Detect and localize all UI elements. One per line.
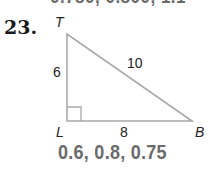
side-label-tl: 6 — [53, 64, 61, 80]
triangle-shape — [67, 34, 192, 121]
vertex-label-l: L — [56, 124, 64, 140]
right-angle-marker — [67, 107, 81, 121]
vertex-label-b: B — [195, 124, 204, 140]
side-label-tb: 10 — [127, 55, 143, 71]
answer-text: 0.6, 0.8, 0.75 — [58, 141, 167, 164]
vertex-label-t: T — [55, 14, 64, 30]
side-label-lb: 8 — [120, 124, 128, 140]
